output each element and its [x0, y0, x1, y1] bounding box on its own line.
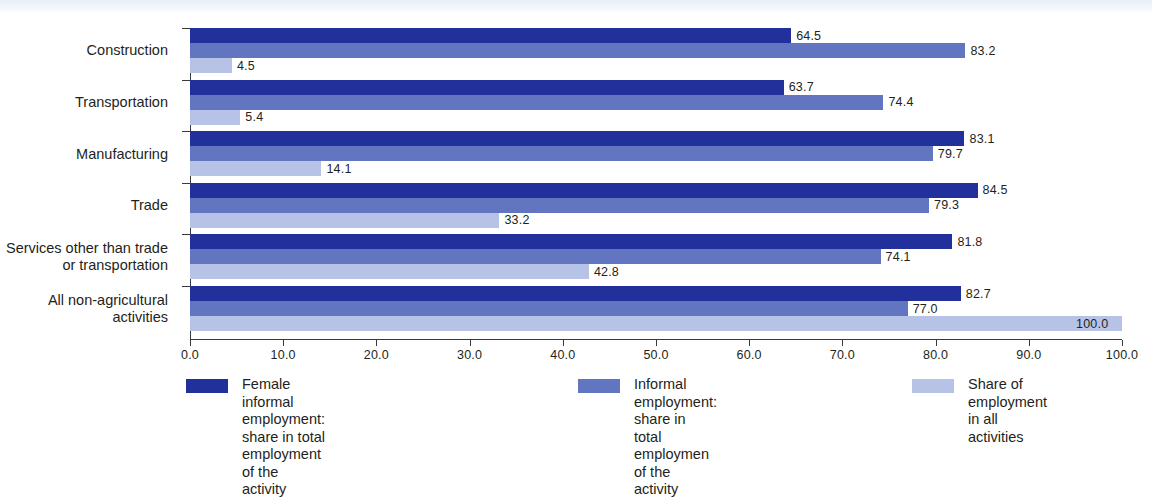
- bar-value-label: 74.1: [886, 250, 911, 265]
- bar: [190, 28, 791, 43]
- bar: [190, 110, 240, 125]
- x-axis-tick: [936, 340, 937, 346]
- x-axis-tick-label: 40.0: [550, 348, 575, 362]
- x-axis-tick-label: 50.0: [643, 348, 668, 362]
- y-axis-tick: [182, 28, 190, 29]
- x-axis-tick: [1029, 340, 1030, 346]
- bar-value-label: 33.2: [504, 213, 529, 228]
- bar-value-label: 77.0: [913, 302, 938, 317]
- bar: [190, 80, 784, 95]
- x-axis-tick: [470, 340, 471, 346]
- bar: [190, 234, 952, 249]
- bar-value-label: 63.7: [789, 80, 814, 95]
- x-axis-tick-label: 0.0: [181, 348, 199, 362]
- bar: [190, 131, 964, 146]
- bar-value-label: 42.8: [594, 265, 619, 280]
- category-label: Services other than trade or transportat…: [0, 240, 182, 273]
- x-axis-tick: [376, 340, 377, 346]
- bar-value-label: 79.7: [938, 147, 963, 162]
- x-axis-tick-label: 10.0: [271, 348, 296, 362]
- category-label: Transportation: [0, 94, 182, 111]
- bar-value-label: 79.3: [934, 198, 959, 213]
- category-label: Trade: [0, 197, 182, 214]
- bar-value-label: 82.7: [966, 287, 991, 302]
- legend-label: Informal employment: share in total empl…: [634, 376, 717, 499]
- bar: [190, 264, 589, 279]
- x-axis-tick: [656, 340, 657, 346]
- category-label: Manufacturing: [0, 146, 182, 163]
- bar-value-label: 84.5: [983, 183, 1008, 198]
- x-axis-tick: [190, 340, 191, 346]
- bar: [190, 58, 232, 73]
- bar: [190, 286, 961, 301]
- legend-swatch-icon: [578, 379, 620, 393]
- bar: [190, 301, 908, 316]
- bar-value-label: 4.5: [237, 59, 255, 74]
- bar: [190, 249, 881, 264]
- bar-value-label: 5.4: [245, 110, 263, 125]
- x-axis-tick-label: 70.0: [830, 348, 855, 362]
- x-axis-tick-label: 90.0: [1016, 348, 1041, 362]
- bar: [190, 198, 929, 213]
- bar: [190, 43, 965, 58]
- bar-value-label: 83.1: [969, 132, 994, 147]
- bar: [190, 146, 933, 161]
- plot-area: 64.583.24.563.774.45.483.179.714.184.579…: [190, 28, 1122, 338]
- bar: [190, 95, 883, 110]
- x-axis-tick: [1122, 340, 1123, 346]
- y-axis-tick: [182, 80, 190, 81]
- x-axis-tick-label: 30.0: [457, 348, 482, 362]
- bar: [190, 183, 978, 198]
- x-axis-tick: [749, 340, 750, 346]
- legend-label: Female informal employment: share in tot…: [242, 376, 325, 499]
- y-axis-tick: [182, 131, 190, 132]
- bar: [190, 161, 321, 176]
- x-axis-tick-label: 100.0: [1106, 348, 1138, 362]
- bar-value-label: 83.2: [970, 44, 995, 59]
- x-axis-tick-label: 60.0: [737, 348, 762, 362]
- x-axis-tick-label: 20.0: [364, 348, 389, 362]
- category-label: All non-agricultural activities: [0, 292, 182, 325]
- y-axis-tick: [182, 286, 190, 287]
- y-axis-tick: [182, 234, 190, 235]
- y-axis-tick: [182, 183, 190, 184]
- bar: [190, 213, 499, 228]
- x-axis-tick-label: 80.0: [923, 348, 948, 362]
- x-axis-tick: [563, 340, 564, 346]
- legend-swatch-icon: [912, 379, 954, 393]
- bar-value-label: 14.1: [326, 162, 351, 177]
- bar-value-label: 100.0: [1076, 317, 1108, 332]
- legend-swatch-icon: [186, 379, 228, 393]
- x-axis-tick: [842, 340, 843, 346]
- x-axis-tick: [283, 340, 284, 346]
- bar-value-label: 64.5: [796, 29, 821, 44]
- category-label: Construction: [0, 42, 182, 59]
- bar-value-label: 81.8: [957, 235, 982, 250]
- legend-label: Share of employment in all activities: [968, 376, 1047, 446]
- chart-legend: Female informal employment: share in tot…: [0, 376, 1152, 436]
- bar-value-label: 74.4: [888, 95, 913, 110]
- bar: [190, 316, 1122, 331]
